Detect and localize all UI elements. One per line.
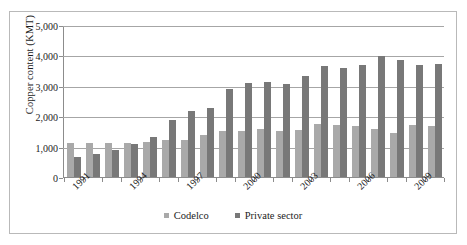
bar-private-sector xyxy=(169,120,176,177)
y-tick-mark xyxy=(59,26,63,27)
bar-codelco xyxy=(200,135,207,177)
bar-codelco xyxy=(352,126,359,177)
bar-group xyxy=(121,26,140,177)
bar-codelco xyxy=(390,133,397,177)
y-tick-label: 0 xyxy=(53,173,58,184)
bar-group xyxy=(254,26,273,177)
bar-private-sector xyxy=(264,82,271,177)
bar-group xyxy=(292,26,311,177)
bar-group xyxy=(83,26,102,177)
bar-group xyxy=(349,26,368,177)
bar-private-sector xyxy=(283,84,290,177)
bar-private-sector xyxy=(321,66,328,177)
bar-group xyxy=(311,26,330,177)
bar-group xyxy=(235,26,254,177)
bar-private-sector xyxy=(359,65,366,177)
bar-codelco xyxy=(67,143,74,177)
y-tick-label: 2,000 xyxy=(36,112,59,123)
legend-label: Codelco xyxy=(174,210,209,221)
bar-codelco xyxy=(276,131,283,177)
chart-figure: Copper content (KMT) 01,0002,0003,0004,0… xyxy=(9,11,457,234)
x-tick-mark xyxy=(444,178,445,182)
bar-group xyxy=(102,26,121,177)
bar-groups xyxy=(64,26,444,177)
bar-codelco xyxy=(105,143,112,177)
y-axis-title: Copper content (KMT) xyxy=(24,0,35,130)
y-tick-label: 4,000 xyxy=(36,51,59,62)
bar-codelco xyxy=(257,129,264,177)
bar-private-sector xyxy=(378,56,385,177)
y-tick-label: 5,000 xyxy=(36,21,59,32)
plot-area: 01,0002,0003,0004,0005,000 xyxy=(63,26,444,178)
bar-codelco xyxy=(409,125,416,177)
bar-codelco xyxy=(295,130,302,177)
y-tick-label: 3,000 xyxy=(36,81,59,92)
bar-codelco xyxy=(314,124,321,177)
bar-private-sector xyxy=(188,111,195,177)
bar-codelco xyxy=(428,126,435,177)
bar-group xyxy=(387,26,406,177)
legend-entry[interactable]: Private sector xyxy=(235,210,302,221)
y-tick-mark xyxy=(59,148,63,149)
bar-private-sector xyxy=(112,150,119,177)
bar-codelco xyxy=(162,140,169,177)
y-tick-mark xyxy=(59,56,63,57)
bar-group xyxy=(159,26,178,177)
bar-codelco xyxy=(124,143,131,177)
y-tick-mark xyxy=(59,87,63,88)
bar-group xyxy=(368,26,387,177)
bar-group xyxy=(140,26,159,177)
legend-swatch-icon xyxy=(164,213,169,218)
bar-group xyxy=(425,26,444,177)
bar-codelco xyxy=(238,131,245,177)
bar-group xyxy=(178,26,197,177)
bar-private-sector xyxy=(131,144,138,177)
bar-group xyxy=(216,26,235,177)
bar-private-sector xyxy=(226,89,233,177)
bar-private-sector xyxy=(93,154,100,177)
legend-label: Private sector xyxy=(245,210,302,221)
bar-private-sector xyxy=(302,76,309,177)
bar-codelco xyxy=(371,129,378,177)
bar-private-sector xyxy=(397,60,404,177)
bar-codelco xyxy=(333,125,340,177)
bar-group xyxy=(330,26,349,177)
legend-swatch-icon xyxy=(235,213,240,218)
bar-private-sector xyxy=(245,83,252,177)
legend-entry[interactable]: Codelco xyxy=(164,210,209,221)
y-tick-label: 1,000 xyxy=(36,142,59,153)
bar-group xyxy=(406,26,425,177)
bar-private-sector xyxy=(150,137,157,177)
bar-codelco xyxy=(219,131,226,177)
bar-private-sector xyxy=(435,64,442,177)
y-tick-mark xyxy=(59,178,63,179)
y-tick-mark xyxy=(59,117,63,118)
bar-group xyxy=(197,26,216,177)
bar-codelco xyxy=(181,140,188,177)
bar-private-sector xyxy=(416,65,423,177)
bar-private-sector xyxy=(340,68,347,177)
bar-private-sector xyxy=(207,108,214,177)
bar-group xyxy=(273,26,292,177)
bar-group xyxy=(64,26,83,177)
chart-legend: CodelcoPrivate sector xyxy=(10,210,456,221)
